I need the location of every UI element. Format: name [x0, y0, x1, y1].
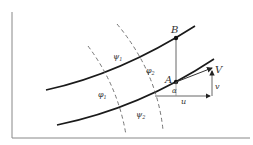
label-b: B: [170, 24, 178, 35]
point-b: [174, 36, 178, 40]
flow-net-diagram: B A V v u α ψ1 φ2 φ1 ψ2: [0, 0, 253, 145]
axes: [12, 12, 250, 138]
label-psi2: ψ2: [136, 110, 145, 120]
label-phi1: φ1: [98, 90, 107, 100]
label-a: A: [164, 74, 172, 85]
label-velocity: V: [215, 64, 224, 75]
velocity-vector: [176, 68, 212, 82]
label-psi1: ψ1: [113, 52, 122, 62]
label-phi2: φ2: [146, 66, 155, 76]
label-u: u: [181, 97, 186, 106]
label-alpha: α: [172, 87, 177, 95]
label-v: v: [215, 82, 220, 91]
